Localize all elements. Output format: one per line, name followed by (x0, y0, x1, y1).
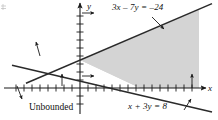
equation-label-line-2: x + 3y = 8 (128, 101, 167, 111)
y-axis-label: y (87, 1, 91, 11)
shaded-region-lower (80, 10, 199, 89)
corner-registration-mark (1, 4, 6, 10)
inequality-graph-figure: 3x – 7y = –24 x + 3y = 8 x y Unbounded (0, 0, 218, 120)
region-label-unbounded: Unbounded (29, 102, 73, 112)
equation-label-line-1: 3x – 7y = –24 (112, 2, 163, 12)
x-axis-label: x (208, 83, 212, 93)
